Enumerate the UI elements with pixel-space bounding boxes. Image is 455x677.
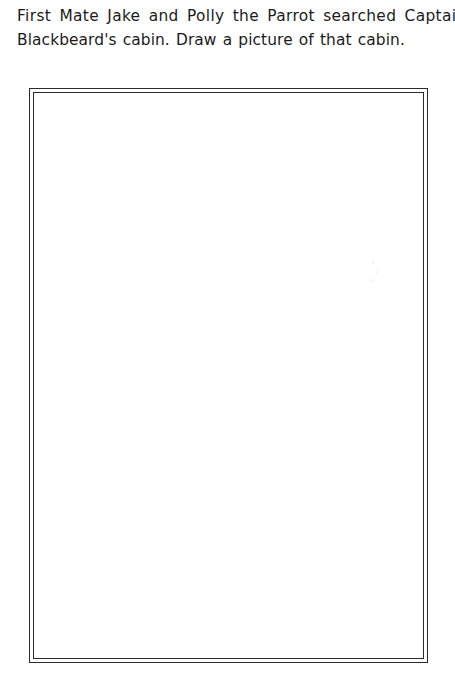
worksheet-page: First Mate Jake and Polly the Parrot sea… (0, 0, 455, 677)
drawing-box-inner-border (33, 92, 424, 659)
scan-speckle (376, 271, 378, 274)
drawing-area[interactable] (34, 93, 423, 658)
prompt-line-2: Blackbeard's cabin. Draw a picture of th… (17, 27, 449, 52)
prompt-line-1: First Mate Jake and Polly the Parrot sea… (17, 3, 449, 28)
scan-speckle (372, 261, 375, 265)
prompt-text: First Mate Jake and Polly the Parrot sea… (17, 3, 449, 51)
drawing-box-outer-border (29, 88, 428, 663)
scan-speckle (370, 279, 373, 282)
